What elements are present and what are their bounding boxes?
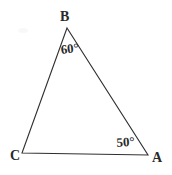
vertex-label-a: A	[152, 151, 162, 165]
angle-label-at-a: 50°	[116, 135, 135, 149]
vertex-label-c: C	[10, 149, 20, 163]
triangle-drawing	[0, 0, 172, 175]
angle-label-at-b: 60°	[60, 41, 79, 56]
triangle-figure: B C A 60° 50°	[0, 0, 172, 175]
vertex-label-b: B	[60, 10, 69, 24]
